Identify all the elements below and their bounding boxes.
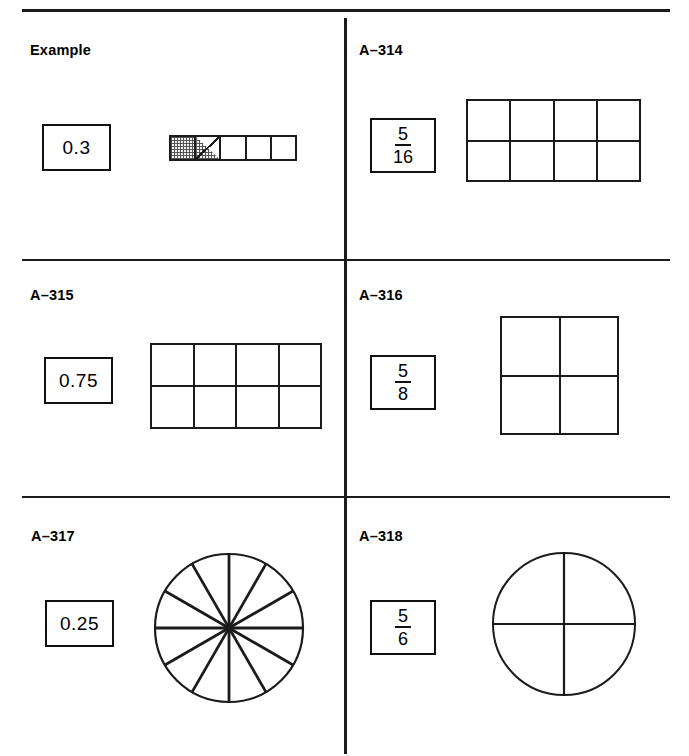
grid-cell[interactable] [502, 318, 561, 377]
grid-cell[interactable] [152, 387, 195, 429]
figure-circle-a317[interactable] [152, 551, 306, 705]
fraction-value-a314: 5 16 [393, 125, 413, 166]
grid-cell[interactable] [555, 142, 598, 183]
top-rule [22, 9, 670, 12]
fraction-value-a316: 5 8 [395, 362, 411, 403]
fraction-value-a318: 5 6 [395, 607, 411, 648]
grid-cell[interactable] [237, 387, 280, 429]
value-box-a314[interactable]: 5 16 [370, 118, 436, 173]
problem-label-a315: A–315 [30, 287, 74, 303]
worksheet-page: Example 0.3 A–314 5 16 [0, 0, 689, 756]
strip-cell-5[interactable] [272, 137, 297, 161]
value-box-a317[interactable]: 0.25 [45, 600, 114, 647]
problem-label-a316: A–316 [359, 287, 403, 303]
figure-grid-a314[interactable] [466, 99, 641, 182]
grid-cell[interactable] [555, 101, 598, 142]
fraction-denominator-a314: 16 [393, 146, 413, 166]
circle-12-sectors-svg [152, 551, 306, 705]
figure-grid-a316[interactable] [500, 316, 619, 435]
decimal-value-a317: 0.25 [60, 614, 99, 633]
value-box-a318[interactable]: 5 6 [370, 600, 436, 655]
grid-cell[interactable] [468, 142, 511, 183]
grid-cell[interactable] [195, 345, 238, 387]
grid-cell[interactable] [195, 387, 238, 429]
value-box-example[interactable]: 0.3 [42, 124, 111, 171]
fraction-numerator-a314: 5 [395, 125, 411, 146]
grid-cell[interactable] [280, 345, 323, 387]
fraction-denominator-a318: 6 [398, 628, 408, 648]
problem-label-a318: A–318 [359, 528, 403, 544]
grid-cell[interactable] [598, 142, 641, 183]
decimal-value-a315: 0.75 [59, 371, 98, 390]
grid-cell[interactable] [280, 387, 323, 429]
strip-cell-3[interactable] [221, 137, 246, 161]
grid-cell[interactable] [511, 101, 554, 142]
strip-cell-1[interactable] [171, 137, 196, 161]
strip-cell-4[interactable] [247, 137, 272, 161]
grid-cell[interactable] [237, 345, 280, 387]
grid-cell[interactable] [598, 101, 641, 142]
grid-cell[interactable] [468, 101, 511, 142]
problem-label-a317: A–317 [31, 528, 75, 544]
grid-cell[interactable] [152, 345, 195, 387]
fraction-numerator-a318: 5 [395, 607, 411, 628]
problem-label-example: Example [30, 42, 91, 58]
problem-label-a314: A–314 [359, 42, 403, 58]
grid-cell[interactable] [502, 377, 561, 436]
circle-4-quadrants-svg [490, 550, 638, 698]
value-box-a315[interactable]: 0.75 [44, 357, 113, 404]
column-divider [344, 18, 347, 754]
grid-cell[interactable] [561, 377, 620, 436]
fraction-denominator-a316: 8 [398, 383, 408, 403]
strip-cell-2-half[interactable] [196, 137, 221, 161]
grid-cell[interactable] [561, 318, 620, 377]
figure-strip-example[interactable] [169, 135, 297, 161]
figure-grid-a315[interactable] [150, 343, 322, 429]
value-box-a316[interactable]: 5 8 [370, 355, 436, 410]
figure-circle-a318[interactable] [490, 550, 638, 698]
decimal-value-example: 0.3 [63, 138, 91, 157]
fraction-numerator-a316: 5 [395, 362, 411, 383]
grid-cell[interactable] [511, 142, 554, 183]
